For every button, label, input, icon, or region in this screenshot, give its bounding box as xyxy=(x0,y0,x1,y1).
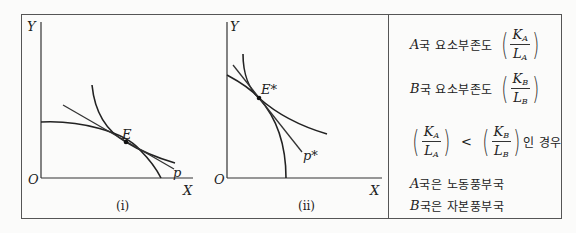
graph-ii-price-line xyxy=(233,65,302,152)
denominator: L xyxy=(513,90,522,105)
numerator: K xyxy=(424,124,434,139)
graph-ii-ppf-curve xyxy=(227,75,286,178)
numerator-sub: B xyxy=(522,78,528,87)
graph-i-caption: (i) xyxy=(116,199,129,213)
row-a-conclusion: A 국은 노동풍부국 xyxy=(410,175,504,192)
numerator-sub: B xyxy=(503,131,509,140)
graph-i-ppf-curve xyxy=(41,122,161,178)
row-b-endowment: B 국 요소부존도 ( KB LB ) xyxy=(410,71,542,106)
graph-i-x-label: X xyxy=(182,183,193,198)
numerator: K xyxy=(512,27,522,42)
denominator-sub: B xyxy=(503,150,509,159)
right-paren: ) xyxy=(514,127,521,157)
right-paren: ) xyxy=(444,127,451,157)
graph-i-price-line-label: p xyxy=(173,165,182,180)
numerator: K xyxy=(494,124,504,139)
graph-i-indifference-curve xyxy=(92,85,175,163)
less-than-operator: < xyxy=(461,134,472,149)
left-paren: ( xyxy=(501,30,508,60)
numerator-sub: A xyxy=(433,131,439,140)
denominator: L xyxy=(424,143,433,158)
row-b-endowment-text: 국 요소부존도 xyxy=(420,80,493,97)
numerator: K xyxy=(513,71,523,86)
graph-i-price-line xyxy=(63,105,174,169)
row-a-endowment: A 국 요소부존도 ( KA LA ) xyxy=(410,27,542,62)
graph-i: Y O X E p (i) xyxy=(27,19,193,213)
graph-ii-caption: (ii) xyxy=(298,199,315,213)
row-a-conclusion-text: 국은 노동풍부국 xyxy=(419,175,504,192)
ratio-kb-lb: ( KB LB ) xyxy=(499,71,542,106)
numerator-sub: A xyxy=(522,34,528,43)
row-b-conclusion-text: 국은 자본풍부국 xyxy=(420,197,505,214)
country-b-symbol: B xyxy=(410,81,420,96)
left-paren: ( xyxy=(412,127,419,157)
ratio-ka-la: ( KA LA ) xyxy=(499,27,542,62)
graph-i-origin-label: O xyxy=(28,172,39,187)
denominator-sub: B xyxy=(522,97,528,106)
graph-i-point-label: E xyxy=(121,127,132,142)
row-a-endowment-text: 국 요소부존도 xyxy=(419,36,492,53)
comparison-right-ratio: ( KB LB ) xyxy=(480,124,523,159)
graph-ii-origin-label: O xyxy=(214,172,225,187)
left-paren: ( xyxy=(482,127,489,157)
denominator-sub: A xyxy=(433,150,439,159)
row-b-conclusion: B 국은 자본풍부국 xyxy=(410,197,504,214)
right-paren: ) xyxy=(533,74,540,104)
comparison-suffix: 인 경우 xyxy=(523,133,562,150)
country-a-symbol: A xyxy=(410,176,419,191)
comparison-left-ratio: ( KA LA ) xyxy=(410,124,453,159)
graph-ii: Y O X E* p* (ii) xyxy=(214,19,382,213)
right-paren: ) xyxy=(532,30,539,60)
denominator: L xyxy=(513,46,522,61)
row-comparison: ( KA LA ) < ( KB LB ) 인 경우 xyxy=(404,124,562,159)
graph-ii-x-label: X xyxy=(369,183,380,198)
denominator-sub: A xyxy=(522,53,528,62)
country-b-symbol: B xyxy=(410,198,420,213)
graph-i-y-label: Y xyxy=(27,19,37,34)
graph-ii-price-line-label: p* xyxy=(303,148,318,163)
denominator: L xyxy=(494,143,503,158)
graph-ii-point-label: E* xyxy=(260,82,277,97)
country-a-symbol: A xyxy=(410,37,419,52)
graph-ii-y-label: Y xyxy=(230,19,240,34)
left-paren: ( xyxy=(501,74,508,104)
